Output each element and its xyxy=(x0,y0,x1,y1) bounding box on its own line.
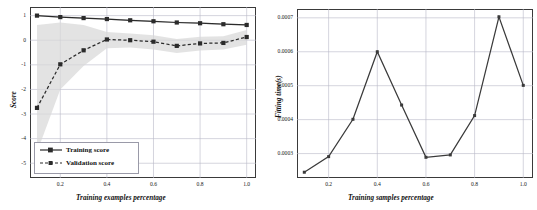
legend-marker-training-icon xyxy=(39,146,63,154)
learning-curve-ylabel: Score xyxy=(10,91,18,108)
learning-curve-xlabel: Training examples percentage xyxy=(76,194,166,202)
x-tick-label: 0.4 xyxy=(92,181,122,187)
x-tick-label: 0.8 xyxy=(460,181,490,187)
figure-canvas: 10-1-2-3-4-50.20.40.60.81.0 Score Traini… xyxy=(0,0,537,210)
y-tick-label: 0.0003 xyxy=(263,150,293,156)
legend-label-validation: Validation score xyxy=(66,159,114,167)
fitting-time-xlabel: Training samples percentage xyxy=(348,194,434,202)
y-tick-label: -4 xyxy=(0,135,26,141)
x-tick-label: 0.6 xyxy=(411,181,441,187)
x-tick-label: 1.0 xyxy=(232,181,262,187)
panel-learning-curve: 10-1-2-3-4-50.20.40.60.81.0 Score Traini… xyxy=(0,0,268,210)
y-tick-label: -5 xyxy=(0,160,26,166)
y-tick-label: -3 xyxy=(0,111,26,117)
legend-item-validation: Validation score xyxy=(39,159,114,167)
x-tick-label: 1.0 xyxy=(508,181,537,187)
x-tick-label: 0.6 xyxy=(138,181,168,187)
x-tick-label: 0.8 xyxy=(185,181,215,187)
y-tick-label: 0.0007 xyxy=(263,14,293,20)
y-tick-label: -1 xyxy=(0,61,26,67)
legend-marker-validation-icon xyxy=(39,159,63,167)
x-tick-label: 0.2 xyxy=(45,181,75,187)
legend-label-training: Training score xyxy=(66,146,109,154)
panel-fitting-time: 0.00030.00040.00050.00060.00070.20.40.60… xyxy=(268,0,537,210)
y-tick-label: 0.0006 xyxy=(263,48,293,54)
fitting-time-ylabel: Fitting time(s) xyxy=(275,75,283,118)
y-tick-label: 1 xyxy=(0,12,26,18)
y-tick-label: 0 xyxy=(0,37,26,43)
legend-item-training: Training score xyxy=(39,146,109,154)
learning-curve-legend: Training score Validation score xyxy=(34,142,139,174)
fitting-time-plot xyxy=(297,9,533,178)
x-tick-label: 0.4 xyxy=(362,181,392,187)
x-tick-label: 0.2 xyxy=(314,181,344,187)
